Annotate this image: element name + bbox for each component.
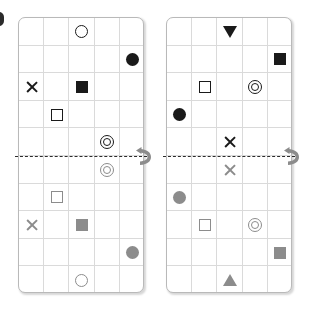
grid-cell[interactable] [167,266,192,292]
grid-cell[interactable] [95,18,120,46]
grid-cell[interactable] [69,128,94,156]
grid-cell[interactable] [192,184,217,212]
grid-cell[interactable] [95,46,120,74]
grid-cell[interactable] [243,128,268,156]
grid-cell[interactable] [69,156,94,184]
grid-cell[interactable] [192,101,217,129]
grid-cell[interactable] [268,266,291,292]
grid-cell[interactable] [120,18,143,46]
grid-cell[interactable] [19,18,44,46]
grid-cell[interactable] [19,266,44,292]
grid-cell[interactable] [243,101,268,129]
source-symbol [223,26,237,38]
grid-cell[interactable] [95,211,120,239]
grid-cell[interactable] [44,73,69,101]
circle-filled-icon [173,191,186,204]
source-symbol [51,109,63,121]
grid-cell[interactable] [217,239,242,267]
grid-cell[interactable] [217,184,242,212]
symbol-cell [120,46,143,74]
grid-cell[interactable] [268,184,291,212]
grid-cell[interactable] [44,128,69,156]
grid-cell[interactable] [120,101,143,129]
grid-cell[interactable] [217,211,242,239]
grid-cell[interactable] [167,211,192,239]
grid-cell[interactable] [167,156,192,184]
grid-cell[interactable] [243,18,268,46]
circle-filled-icon [126,53,139,66]
cross-icon [25,218,39,232]
grid-cell[interactable] [243,184,268,212]
grid-cell[interactable] [243,266,268,292]
grid-cell[interactable] [243,156,268,184]
grid-cell[interactable] [95,239,120,267]
grid-cell[interactable] [69,101,94,129]
grid-cell[interactable] [120,266,143,292]
flip-vertical-icon[interactable] [134,146,154,168]
grid-cell[interactable] [217,73,242,101]
grid-cell[interactable] [44,211,69,239]
grid-cell[interactable] [44,239,69,267]
grid-cell[interactable] [19,156,44,184]
symbol-cell [120,239,143,267]
grid-cell[interactable] [192,266,217,292]
grid-cell[interactable] [95,266,120,292]
grid-cell[interactable] [19,239,44,267]
symbol-cell [192,73,217,101]
symbol-cell [217,266,242,292]
grid-cell[interactable] [167,73,192,101]
grid-cell[interactable] [217,101,242,129]
grid-cell[interactable] [44,18,69,46]
reflected-symbol [199,219,211,231]
grid-cell[interactable] [44,266,69,292]
grid-cell[interactable] [44,46,69,74]
grid-cell[interactable] [95,101,120,129]
grid-cell[interactable] [69,239,94,267]
reflected-symbol [75,274,88,287]
circle-filled-icon [126,246,139,259]
grid-cell[interactable] [19,46,44,74]
grid-cell[interactable] [167,18,192,46]
grid-cell[interactable] [192,18,217,46]
grid-cell[interactable] [167,239,192,267]
right-panel[interactable] [166,17,292,293]
grid-cell[interactable] [268,101,291,129]
grid-cell[interactable] [69,46,94,74]
symbol-cell [19,73,44,101]
grid-cell[interactable] [120,73,143,101]
source-symbol [248,80,262,94]
grid-cell[interactable] [192,128,217,156]
grid-cell[interactable] [19,184,44,212]
grid-cell[interactable] [19,101,44,129]
symbol-cell [95,128,120,156]
grid-cell[interactable] [167,46,192,74]
reflected-symbol [100,163,114,177]
left-panel[interactable] [18,17,144,293]
flip-vertical-icon[interactable] [282,146,302,168]
reflected-symbol [126,246,139,259]
grid-cell[interactable] [192,156,217,184]
grid-cell[interactable] [217,46,242,74]
grid-cell[interactable] [167,128,192,156]
grid-cell[interactable] [268,73,291,101]
grid-cell[interactable] [95,73,120,101]
grid-cell[interactable] [268,211,291,239]
reflected-symbol [248,218,262,232]
grid-cell[interactable] [120,211,143,239]
cross-icon [223,163,237,177]
source-symbol [274,53,286,65]
grid-cell[interactable] [44,156,69,184]
symbol-cell [217,128,242,156]
grid-cell[interactable] [69,184,94,212]
symbol-cell [243,211,268,239]
grid-cell[interactable] [243,239,268,267]
grid-cell[interactable] [243,46,268,74]
grid-cell[interactable] [120,184,143,212]
mirror-line [163,156,295,157]
triangle-up-icon [223,274,237,286]
grid-cell[interactable] [192,239,217,267]
grid-cell[interactable] [268,18,291,46]
grid-cell[interactable] [19,128,44,156]
grid-cell[interactable] [95,184,120,212]
grid-cell[interactable] [192,46,217,74]
